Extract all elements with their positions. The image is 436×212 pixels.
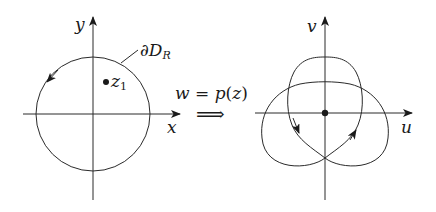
z1-label-main: z [111,71,120,91]
mapping-func: p [215,83,226,103]
u-axis-label: u [401,119,412,136]
mapping-arrow-glyph: ⟹ [196,102,225,126]
contour-label-leader [121,50,138,63]
x-axis-label: x [167,119,177,136]
v-label-text: v [307,16,317,36]
mapping-arg: z [232,83,241,103]
contour-arrow-icon [47,70,58,82]
x-label-text: x [167,117,177,137]
v-axis-label: v [307,18,317,35]
curve-arrow-right-icon [350,130,356,140]
contour-label: ∂DR [140,42,171,61]
mapping-equals: = [190,83,215,103]
mapping-paren-close: ) [241,83,248,103]
mapping-arrow-icon: ⟹ [196,104,225,124]
y-label-text: y [75,14,85,34]
curve-arrow-left-icon [293,118,299,133]
contour-label-sub: R [162,49,170,62]
mapping-formula: w = p(z) [175,85,248,102]
mapping-lhs: w [175,83,190,103]
point-z1-label: z1 [111,73,127,92]
w-plane [255,17,412,200]
contour-label-main: ∂D [140,40,162,60]
origin-point [322,110,328,116]
point-z1 [103,79,109,85]
y-axis-label: y [75,16,85,33]
u-label-text: u [401,117,412,137]
z1-label-sub: 1 [120,80,127,93]
